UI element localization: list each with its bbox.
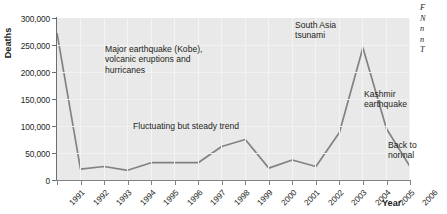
y-axis-tick	[52, 72, 56, 73]
x-axis-tick-label: 1999	[256, 188, 275, 207]
chart-figure: 300,000 250,000 200,000 150,000 100,000 …	[0, 0, 447, 214]
x-axis-tick-label: 1996	[185, 188, 204, 207]
y-axis-tick-label: 100,000	[2, 122, 50, 132]
x-axis-tick	[128, 181, 129, 185]
y-axis-tick	[52, 126, 56, 127]
annotation-back-to-normal: Back to normal	[388, 140, 417, 161]
annotation-south-asia-tsunami: South Asia tsunami	[295, 20, 336, 41]
x-axis-line	[56, 180, 411, 181]
plot-area	[57, 18, 410, 180]
x-axis-tick	[339, 181, 340, 185]
x-axis-tick-label: 1994	[138, 188, 157, 207]
gridline-horizontal	[57, 99, 410, 100]
x-axis-tick	[387, 181, 388, 185]
x-axis-tick	[222, 181, 223, 185]
x-axis-tick	[175, 181, 176, 185]
y-axis-title: Deaths	[3, 13, 13, 73]
x-axis-tick-label: 1992	[91, 188, 110, 207]
x-axis-tick	[81, 181, 82, 185]
x-axis-tick-label: 1991	[68, 188, 87, 207]
x-axis-tick-label: 1998	[232, 188, 251, 207]
annotation-kobe: Major earthquake (Kobe), volcanic erupti…	[105, 44, 202, 75]
x-axis-tick-label: 1995	[162, 188, 181, 207]
x-axis-tick-label: 2000	[279, 188, 298, 207]
y-axis-tick	[52, 18, 56, 19]
x-axis-tick-label: 2003	[350, 188, 369, 207]
x-axis-tick	[57, 181, 58, 185]
x-axis-tick-label: 2006	[421, 188, 440, 207]
y-axis-tick	[52, 45, 56, 46]
x-axis-tick	[245, 181, 246, 185]
x-axis-tick	[104, 181, 105, 185]
x-axis-tick-label: 2002	[326, 188, 345, 207]
y-axis-tick	[52, 180, 56, 181]
x-axis-tick	[316, 181, 317, 185]
y-axis-tick	[52, 99, 56, 100]
x-axis-tick-label: 1993	[115, 188, 134, 207]
gridline-horizontal	[57, 153, 410, 154]
x-axis-tick	[198, 181, 199, 185]
y-axis-tick	[52, 153, 56, 154]
x-axis-tick	[269, 181, 270, 185]
y-axis-line	[56, 17, 57, 181]
annotation-fluctuating: Fluctuating but steady trend	[133, 121, 239, 131]
x-axis-tick	[292, 181, 293, 185]
y-axis-tick-label: 50,000	[2, 149, 50, 159]
x-axis-tick	[410, 181, 411, 185]
y-axis-tick-label: 150,000	[2, 95, 50, 105]
x-axis-title: Year	[382, 198, 401, 208]
x-axis-tick-label: 2001	[303, 188, 322, 207]
side-caption-clipped: F N n n T	[420, 3, 447, 56]
y-axis-tick-label: 0	[2, 176, 50, 186]
x-axis-tick-label: 1997	[209, 188, 228, 207]
x-axis-tick	[151, 181, 152, 185]
x-axis-tick	[363, 181, 364, 185]
annotation-kashmir-earthquake: Kashmir earthquake	[364, 89, 407, 110]
